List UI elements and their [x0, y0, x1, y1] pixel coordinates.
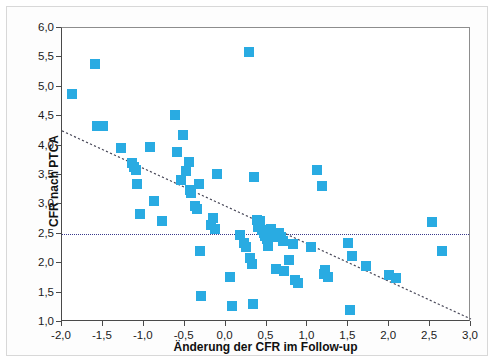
scatter-point [192, 204, 202, 214]
scatter-point [186, 188, 196, 198]
scatter-point [293, 278, 303, 288]
scatter-point [437, 246, 447, 256]
y-tick-label: 2,5 [20, 227, 54, 239]
x-tick-mark [225, 321, 226, 326]
x-tick-mark [347, 321, 348, 326]
x-tick-label: 0,0 [217, 329, 233, 341]
scatter-point [343, 238, 353, 248]
x-tick-label: -2,0 [51, 329, 71, 341]
scatter-point [157, 216, 167, 226]
scatter-point [116, 143, 126, 153]
x-tick-mark [306, 321, 307, 326]
x-tick-mark [266, 321, 267, 326]
scatter-point [361, 261, 371, 271]
scatter-point [195, 246, 205, 256]
scatter-point [241, 242, 251, 252]
plot-area [61, 27, 470, 321]
scatter-point [131, 165, 141, 175]
scatter-point [278, 236, 288, 246]
scatter-point [145, 142, 155, 152]
y-tick-label: 4,0 [20, 139, 54, 151]
y-tick-label: 1,5 [20, 286, 54, 298]
scatter-point [178, 130, 188, 140]
scatter-point [135, 209, 145, 219]
x-tick-mark [184, 321, 185, 326]
scatter-point [194, 179, 204, 189]
y-tick-label: 2,0 [20, 256, 54, 268]
scatter-point [184, 157, 194, 167]
scatter-point [227, 301, 237, 311]
x-tick-label: -1,0 [133, 329, 153, 341]
x-tick-mark [102, 321, 103, 326]
x-tick-label: 2,5 [421, 329, 437, 341]
y-tick-label: 3,0 [20, 197, 54, 209]
scatter-point [212, 169, 222, 179]
figure-container: CFR nach PTCA Änderung der CFR im Follow… [0, 0, 494, 362]
x-tick-label: -1,5 [92, 329, 112, 341]
x-tick-mark [61, 321, 62, 326]
scatter-point [279, 266, 289, 276]
scatter-point [347, 251, 357, 261]
scatter-point [306, 242, 316, 252]
scatter-point [172, 147, 182, 157]
scatter-point [284, 255, 294, 265]
scatter-point [210, 224, 220, 234]
x-tick-label: 1,0 [298, 329, 314, 341]
y-tick-label: 1,0 [20, 315, 54, 327]
scatter-point [248, 299, 258, 309]
scatter-point [288, 239, 298, 249]
scatter-point [132, 179, 142, 189]
scatter-point [345, 305, 355, 315]
x-tick-mark [143, 321, 144, 326]
scatter-point [317, 181, 327, 191]
x-axis-title: Änderung der CFR im Follow-up [61, 340, 470, 354]
y-tick-label: 6,0 [20, 21, 54, 33]
scatter-point [98, 121, 108, 131]
x-tick-label: 2,0 [380, 329, 396, 341]
x-tick-mark [388, 321, 389, 326]
x-tick-mark [470, 321, 471, 326]
y-tick-label: 3,5 [20, 168, 54, 180]
scatter-point [323, 272, 333, 282]
y-tick-label: 4,5 [20, 109, 54, 121]
scatter-point [170, 110, 180, 120]
scatter-point [208, 213, 218, 223]
y-tick-label: 5,0 [20, 80, 54, 92]
scatter-point [391, 273, 401, 283]
scatter-point [244, 47, 254, 57]
scatter-point [149, 196, 159, 206]
x-tick-mark [429, 321, 430, 326]
scatter-point [427, 217, 437, 227]
scatter-point [225, 272, 235, 282]
x-tick-label: 3,0 [462, 329, 478, 341]
scatter-point [312, 165, 322, 175]
x-tick-label: 0,5 [258, 329, 274, 341]
y-tick-label: 5,5 [20, 50, 54, 62]
x-tick-label: 1,5 [339, 329, 355, 341]
trend-line [62, 28, 469, 320]
scatter-point [247, 259, 257, 269]
scatter-point [67, 89, 77, 99]
scatter-point [90, 59, 100, 69]
x-tick-label: -0,5 [174, 329, 194, 341]
scatter-point [249, 172, 259, 182]
scatter-point [181, 166, 191, 176]
scatter-point [196, 291, 206, 301]
